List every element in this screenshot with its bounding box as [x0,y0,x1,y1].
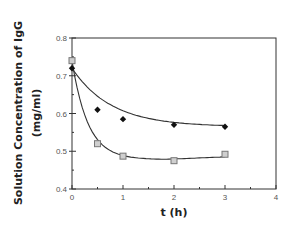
plot-border [72,38,276,189]
y-tick-label: 0.8 [56,34,68,43]
plot-frame [72,38,276,189]
y-tick-label: 0.7 [56,72,68,81]
square-marker [95,141,101,147]
x-tick-label: 4 [274,193,279,202]
y-tick-label: 0.5 [56,147,68,156]
x-axis-title: t (h) [161,206,188,219]
y-axis-title-line2: (mg/ml) [30,89,43,138]
y-tick-label: 0.6 [56,110,68,119]
x-tick-label: 3 [223,193,228,202]
y-tick-label: 0.4 [56,185,68,194]
diamond-marker [94,107,100,113]
x-tick-label: 1 [121,193,126,202]
diamond-marker [69,65,75,71]
fit-curve-filled-diamond [72,68,225,125]
data-markers [69,58,228,164]
square-marker [120,153,126,159]
x-tick-label: 2 [172,193,177,202]
y-axis-title-line1: Solution Concentration of IgG [12,21,25,205]
square-marker [171,158,177,164]
diamond-marker [120,116,126,122]
x-tick-label: 0 [70,193,75,202]
square-marker [69,58,75,64]
chart: 012340.40.50.60.70.8 t (h) Solution Conc… [0,0,294,231]
axis-ticks: 012340.40.50.60.70.8 [56,34,279,202]
square-marker [222,151,228,157]
diamond-marker [222,124,228,130]
